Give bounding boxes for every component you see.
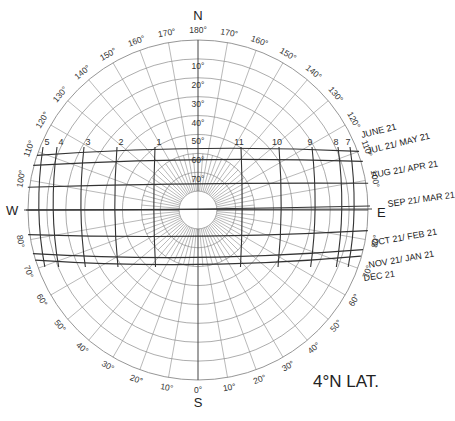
bearing-label: 170° [220,26,239,39]
altitude-label: 10° [192,61,205,71]
bearing-label: 10° [222,381,236,393]
azimuth-spoke-fine [206,227,222,261]
azimuth-spoke-fine [215,186,249,202]
bearing-label: 180° [189,25,207,35]
azimuth-spoke [168,229,194,378]
hour-line [240,147,242,267]
azimuth-spoke [201,229,227,378]
azimuth-spoke-fine [147,218,181,234]
hour-label: 8 [333,137,338,147]
bearing-label: 110° [21,139,36,158]
azimuth-spoke [89,80,186,196]
azimuth-spoke-fine [152,177,183,199]
hour-label: 3 [85,137,90,147]
bearing-label: 160° [126,33,146,48]
south-label: S [194,395,203,410]
date-label-june: JUNE 21 [360,122,397,140]
azimuth-spoke [210,80,307,196]
date-label-aug-apr: AUG 21/ APR 21 [371,158,439,180]
bearing-label: 30° [100,358,116,373]
bearing-label: 50° [52,318,68,334]
azimuth-spoke [204,228,256,370]
azimuth-spoke-fine [211,223,238,250]
azimuth-spoke [113,63,189,194]
altitude-label: 70° [192,174,205,184]
azimuth-spoke-fine [152,221,183,243]
azimuth-spoke [207,63,283,194]
hour-label: 4 [58,137,63,147]
azimuth-spoke [204,50,256,192]
azimuth-spoke-fine [174,227,190,261]
hour-label: 9 [307,137,312,147]
bearing-label: 150° [278,45,298,62]
hour-label: 1 [156,137,161,147]
azimuth-spoke-fine [209,225,231,256]
north-label: N [193,8,202,23]
hour-label: 2 [118,137,123,147]
bearing-label: 40° [306,340,322,356]
azimuth-spoke [210,224,307,340]
azimuth-spoke-fine [213,221,244,243]
hour-label: 11 [234,137,243,147]
bearing-label: 0° [194,385,202,395]
bearing-label: 20° [252,372,268,386]
bearing-label: 70° [22,264,36,280]
hour-label: 7 [345,137,350,147]
bearing-label: 20° [129,372,145,386]
west-label: W [6,203,19,218]
bearing-label: 100° [14,169,27,188]
date-label-nov-jan: NOV 21/ JAN 21 [368,249,435,270]
bearing-label: 120° [345,110,362,130]
azimuth-spoke [207,226,283,357]
hour-label: 10 [272,137,282,147]
sun-path-diagram: 10°20°30°40°50°60°70° 543211110987 180°1… [0,0,455,421]
azimuth-spoke [216,216,358,268]
bearing-label: 30° [280,358,296,373]
east-label: E [377,205,386,220]
altitude-label: 30° [192,99,205,109]
bearing-label: 120° [33,110,50,130]
azimuth-spoke [38,216,180,268]
bearing-label: 60° [346,292,361,308]
azimuth-spoke [89,224,186,340]
altitude-label: 40° [192,118,205,128]
azimuth-spoke-fine [174,159,190,193]
bearing-label: 60° [35,292,50,308]
azimuth-spoke-fine [165,225,187,256]
altitude-label: 60° [192,155,205,165]
date-label-sep-mar: SEP 21/ MAR 21 [387,190,455,209]
bearing-label: 170° [157,26,176,39]
bearing-label: 150° [98,45,118,62]
hour-label: 5 [44,137,49,147]
azimuth-spoke [217,180,366,206]
azimuth-spoke [140,228,192,370]
bearing-label: 50° [328,318,344,334]
bearing-label: 10° [160,381,174,393]
azimuth-spoke [212,222,328,319]
latitude-label: 4°N LAT. [313,372,379,391]
azimuth-spoke-fine [147,186,181,202]
azimuth-spoke-fine [215,218,249,234]
azimuth-spoke [113,226,189,357]
azimuth-spoke-fine [158,170,185,197]
azimuth-spoke [140,50,192,192]
altitude-label: 20° [192,80,205,90]
bearing-label: 80° [15,234,27,248]
azimuth-spoke-fine [206,159,222,193]
altitude-label: 50° [192,136,205,146]
date-label-oct-feb: OCT 21/ FEB 21 [371,227,438,248]
azimuth-spoke [201,43,227,192]
azimuth-spoke-fine [209,164,231,195]
bearing-label: 160° [250,33,270,48]
hour-line [154,147,156,267]
azimuth-spoke [38,152,180,204]
bearing-label: 40° [74,340,90,356]
azimuth-spoke-fine [165,164,187,195]
azimuth-spoke-fine [213,177,244,199]
